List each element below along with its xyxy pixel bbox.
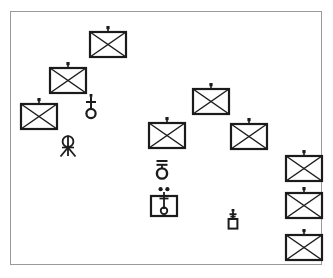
infantry-unit-symbol[interactable]: Infantry unit 2 (48, 62, 88, 94)
infantry-unit-label: Infantry unit 9 (284, 261, 285, 262)
antenna-post-symbol[interactable]: Antenna post (82, 93, 100, 121)
small-post-label: Small boxed post (225, 232, 226, 233)
infantry-unit-symbol[interactable]: Infantry unit 5 (147, 117, 187, 149)
infantry-unit-symbol[interactable]: Infantry unit 3 (19, 98, 59, 130)
tripod-mast-label: Tripod loop antenna (57, 160, 58, 161)
double-bar-ring-label: Double bar ring (153, 182, 154, 183)
infantry-unit-symbol[interactable]: Infantry unit 1 (88, 26, 128, 58)
infantry-unit-symbol[interactable]: Infantry unit 6 (229, 118, 269, 150)
diagram-canvas: Infantry unit 1 Infantry unit 2 Infantry… (0, 0, 333, 278)
diagram-frame: Infantry unit 1 Infantry unit 2 Infantry… (10, 11, 322, 265)
infantry-unit-label: Infantry unit 6 (229, 150, 230, 151)
infantry-unit-label: Infantry unit 5 (147, 149, 148, 150)
infantry-unit-label: Infantry unit 4 (191, 115, 192, 116)
double-bar-ring-symbol[interactable]: Double bar ring (153, 158, 171, 182)
infantry-unit-label: Infantry unit 3 (19, 130, 20, 131)
small-post-symbol[interactable]: Small boxed post (225, 208, 241, 232)
tripod-mast-symbol[interactable]: Tripod loop antenna (57, 134, 79, 160)
antenna-post-label: Antenna post (82, 121, 83, 122)
page-title: Tactical Unit Disposition Overlay (0, 0, 1, 1)
infantry-unit-label: Infantry unit 7 (284, 182, 285, 183)
infantry-unit-label: Infantry unit 2 (48, 94, 49, 95)
boxed-mast-label: Boxed mast station (148, 222, 149, 223)
infantry-unit-label: Infantry unit 8 (284, 219, 285, 220)
infantry-unit-symbol[interactable]: Infantry unit 9 (284, 229, 324, 261)
infantry-unit-symbol[interactable]: Infantry unit 7 (284, 150, 324, 182)
infantry-unit-label: Infantry unit 1 (88, 58, 89, 59)
infantry-unit-symbol[interactable]: Infantry unit 4 (191, 83, 231, 115)
infantry-unit-symbol[interactable]: Infantry unit 8 (284, 187, 324, 219)
boxed-mast-symbol[interactable]: Boxed mast station (148, 186, 180, 222)
